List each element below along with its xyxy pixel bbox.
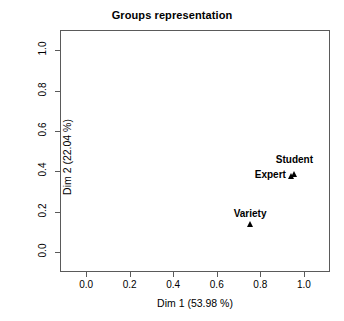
x-tick-label: 0.8 xyxy=(242,279,278,290)
y-tick-mark xyxy=(55,131,60,132)
x-tick-label: 0.2 xyxy=(112,279,148,290)
y-tick-label: 1.0 xyxy=(37,40,48,58)
y-tick-label: 0.4 xyxy=(37,161,48,179)
x-axis-label: Dim 1 (53.98 %) xyxy=(60,297,330,309)
y-tick-label: 0.0 xyxy=(37,241,48,259)
y-tick-mark xyxy=(55,91,60,92)
x-tick-mark xyxy=(173,272,174,277)
x-tick-label: 0.6 xyxy=(199,279,235,290)
y-tick-mark xyxy=(55,212,60,213)
x-tick-label: 0.0 xyxy=(68,279,104,290)
plot-area xyxy=(60,30,330,272)
y-tick-label: 0.2 xyxy=(37,201,48,219)
data-point-label: Expert xyxy=(255,169,286,180)
x-tick-mark xyxy=(260,272,261,277)
chart-title: Groups representation xyxy=(0,9,344,21)
x-tick-label: 1.0 xyxy=(286,279,322,290)
y-axis-label: Dim 2 (22.04 %) xyxy=(61,36,73,278)
data-point-label: Variety xyxy=(234,208,267,219)
data-point-marker[interactable] xyxy=(247,221,253,227)
x-tick-mark xyxy=(304,272,305,277)
y-tick-mark xyxy=(55,252,60,253)
x-tick-mark xyxy=(130,272,131,277)
x-tick-mark xyxy=(86,272,87,277)
y-tick-label: 0.8 xyxy=(37,80,48,98)
data-point-marker[interactable] xyxy=(288,173,294,179)
chart-figure: Groups representation 0.00.20.40.60.81.0… xyxy=(0,0,344,321)
y-tick-mark xyxy=(55,171,60,172)
x-tick-mark xyxy=(217,272,218,277)
data-point-label: Student xyxy=(276,154,313,165)
x-tick-label: 0.4 xyxy=(155,279,191,290)
y-tick-mark xyxy=(55,50,60,51)
y-tick-label: 0.6 xyxy=(37,120,48,138)
